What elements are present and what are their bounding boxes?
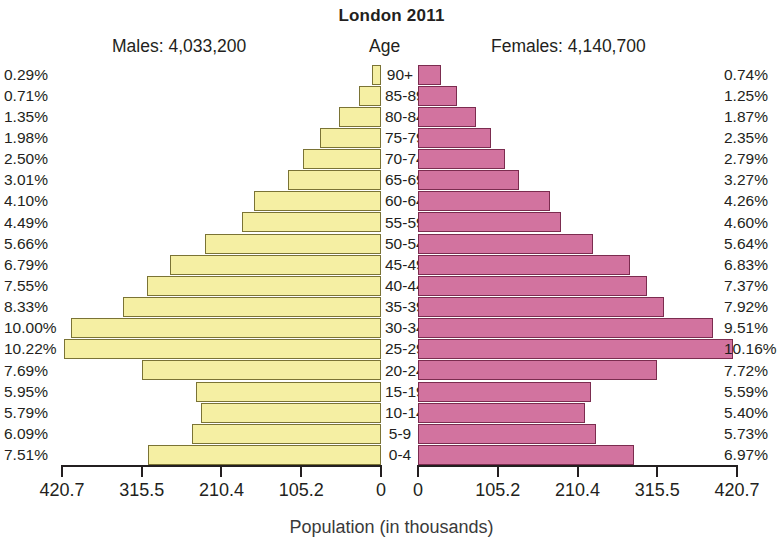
male-bar[interactable] <box>201 403 381 423</box>
female-bar[interactable] <box>418 424 596 444</box>
male-percent-label: 8.33% <box>4 299 48 315</box>
male-bar[interactable] <box>359 86 381 106</box>
pyramid-row: 2.50%70-742.79% <box>0 149 783 170</box>
female-bar[interactable] <box>418 107 476 127</box>
left-axis-tick <box>141 465 143 477</box>
left-axis-tick-label: 315.5 <box>119 480 164 501</box>
female-percent-label: 2.35% <box>724 130 768 146</box>
age-band-label: 0-4 <box>385 447 415 463</box>
pyramid-row: 0.29%90+0.74% <box>0 64 783 85</box>
male-percent-label: 7.69% <box>4 363 48 379</box>
female-bar[interactable] <box>418 255 630 275</box>
female-bar[interactable] <box>418 403 585 423</box>
male-percent-label: 6.09% <box>4 426 48 442</box>
age-band-label: 50-54 <box>385 236 415 252</box>
male-bar[interactable] <box>339 107 381 127</box>
age-band-label: 70-74 <box>385 151 415 167</box>
female-bar[interactable] <box>418 170 519 190</box>
male-bar[interactable] <box>71 318 381 338</box>
left-axis-tick <box>220 465 222 477</box>
age-band-label: 25-29 <box>385 342 415 358</box>
female-percent-label: 7.92% <box>724 299 768 315</box>
male-percent-label: 10.00% <box>4 321 57 337</box>
female-percent-label: 5.40% <box>724 405 768 421</box>
male-bar[interactable] <box>148 445 381 465</box>
female-percent-label: 9.51% <box>724 321 768 337</box>
male-bar[interactable] <box>142 360 381 380</box>
male-bar[interactable] <box>303 149 381 169</box>
male-bar[interactable] <box>196 382 381 402</box>
right-axis-tick-label: 105.2 <box>475 480 520 501</box>
female-bar[interactable] <box>418 212 561 232</box>
female-percent-label: 2.79% <box>724 151 768 167</box>
male-bar[interactable] <box>242 212 381 232</box>
right-axis-tick-label: 210.4 <box>555 480 600 501</box>
pyramid-row: 1.98%75-792.35% <box>0 127 783 148</box>
female-bar[interactable] <box>418 382 591 402</box>
age-band-label: 45-49 <box>385 257 415 273</box>
male-bar[interactable] <box>372 65 381 85</box>
male-percent-label: 5.66% <box>4 236 48 252</box>
female-bar[interactable] <box>418 149 505 169</box>
male-bar[interactable] <box>254 191 381 211</box>
age-band-label: 80-84 <box>385 109 415 125</box>
age-band-label: 55-59 <box>385 215 415 231</box>
female-bar[interactable] <box>418 128 491 148</box>
pyramid-row: 6.79%45-496.83% <box>0 254 783 275</box>
female-bar[interactable] <box>418 318 713 338</box>
female-percent-label: 6.97% <box>724 447 768 463</box>
age-band-label: 10-14 <box>385 405 415 421</box>
male-percent-label: 5.79% <box>4 405 48 421</box>
male-bar[interactable] <box>170 255 381 275</box>
left-axis-tick <box>300 465 302 477</box>
female-bar[interactable] <box>418 234 593 254</box>
age-band-label: 40-44 <box>385 278 415 294</box>
age-band-label: 30-34 <box>385 321 415 337</box>
male-bar[interactable] <box>123 297 381 317</box>
left-axis-tick-label: 210.4 <box>199 480 244 501</box>
female-bar[interactable] <box>418 276 647 296</box>
pyramid-row: 1.35%80-841.87% <box>0 106 783 127</box>
male-bar[interactable] <box>288 170 381 190</box>
age-column-header: Age <box>369 36 400 57</box>
female-percent-label: 1.87% <box>724 109 768 125</box>
pyramid-row: 7.55%40-447.37% <box>0 275 783 296</box>
right-axis-tick-label: 420.7 <box>714 480 759 501</box>
female-bar[interactable] <box>418 65 441 85</box>
right-axis-tick <box>577 465 579 477</box>
age-band-label: 35-39 <box>385 299 415 315</box>
male-bar[interactable] <box>64 339 381 359</box>
pyramid-row: 5.95%15-195.59% <box>0 381 783 402</box>
age-band-label: 85-89 <box>385 88 415 104</box>
right-axis-tick-label: 315.5 <box>635 480 680 501</box>
female-percent-label: 5.64% <box>724 236 768 252</box>
males-total-header: Males: 4,033,200 <box>112 36 246 57</box>
male-percent-label: 1.35% <box>4 109 48 125</box>
right-axis-tick <box>417 465 419 477</box>
female-bar[interactable] <box>418 297 664 317</box>
male-bar[interactable] <box>147 276 381 296</box>
female-bar[interactable] <box>418 360 657 380</box>
female-bar[interactable] <box>418 191 550 211</box>
female-bar[interactable] <box>418 339 733 359</box>
male-percent-label: 4.49% <box>4 215 48 231</box>
female-percent-label: 5.73% <box>724 426 768 442</box>
right-axis-tick <box>736 465 738 477</box>
male-bar[interactable] <box>192 424 381 444</box>
left-axis-tick <box>61 465 63 477</box>
male-bar[interactable] <box>320 128 381 148</box>
pyramid-plot-area: 0.29%90+0.74%0.71%85-891.25%1.35%80-841.… <box>0 64 783 466</box>
age-band-label: 20-24 <box>385 363 415 379</box>
pyramid-row: 5.79%10-145.40% <box>0 402 783 423</box>
male-bar[interactable] <box>205 234 381 254</box>
population-pyramid-chart: London 2011 Males: 4,033,200 Age Females… <box>0 0 783 553</box>
age-band-label: 75-79 <box>385 130 415 146</box>
female-bar[interactable] <box>418 86 457 106</box>
pyramid-row: 7.51%0-46.97% <box>0 445 783 466</box>
female-bar[interactable] <box>418 445 634 465</box>
female-percent-label: 3.27% <box>724 173 768 189</box>
male-percent-label: 3.01% <box>4 173 48 189</box>
females-total-header: Females: 4,140,700 <box>491 36 646 57</box>
pyramid-row: 4.49%55-594.60% <box>0 212 783 233</box>
male-percent-label: 0.71% <box>4 88 48 104</box>
